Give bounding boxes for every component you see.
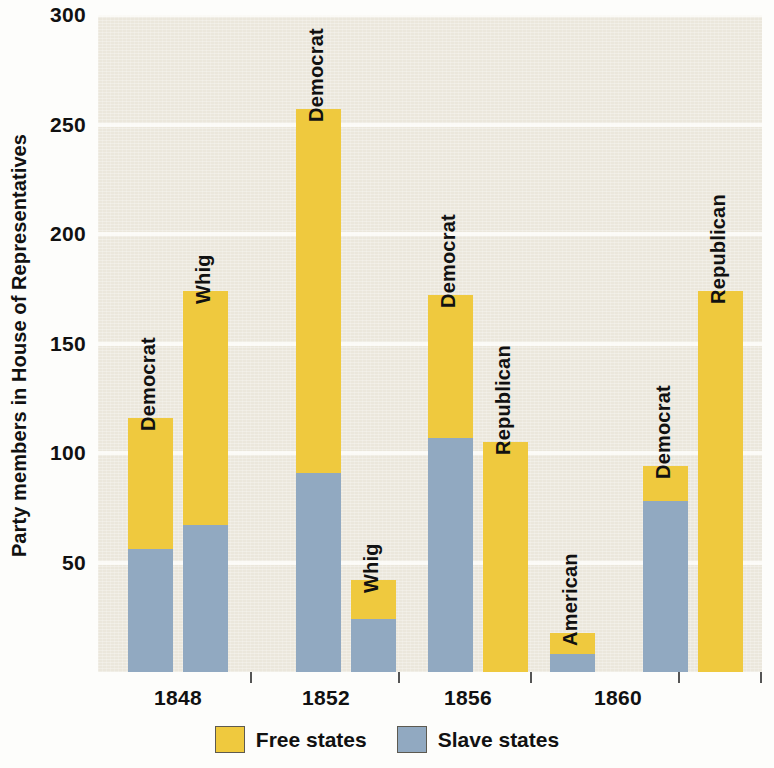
- x-axis-tick-2: [530, 672, 532, 683]
- bar-1856-republican: [483, 442, 528, 672]
- bar-1852-democrat: [296, 109, 341, 672]
- legend-swatch-free-states: [215, 726, 245, 753]
- bar-1860-republican: [698, 291, 743, 672]
- legend-label-slave-states: Slave states: [438, 728, 559, 752]
- y-tick-label-150: 150: [50, 332, 86, 356]
- bar-segment-slave-states: [643, 501, 688, 672]
- bar-label-1848-democrat: Democrat: [137, 337, 160, 431]
- bar-segment-slave-states: [183, 525, 228, 672]
- bar-1848-whig: [183, 291, 228, 672]
- x-axis-tick-3: [678, 672, 680, 683]
- bar-1860-democrat: [643, 466, 688, 672]
- bar-label-1860-republican: Republican: [707, 194, 730, 304]
- x-tick-label-1852: 1852: [302, 686, 350, 710]
- bar-segment-slave-states: [296, 473, 341, 672]
- bar-segment-free-states: [183, 291, 228, 525]
- bar-segment-slave-states: [128, 549, 173, 672]
- bar-label-1852-whig: Whig: [360, 543, 383, 593]
- x-tick-label-1848: 1848: [154, 686, 202, 710]
- bar-label-1856-american: American: [559, 553, 582, 646]
- bar-label-1856-republican: Republican: [492, 345, 515, 455]
- bar-label-1848-whig: Whig: [192, 254, 215, 304]
- gridline-250: [98, 123, 762, 127]
- bar-segment-slave-states: [428, 438, 473, 672]
- bar-segment-free-states: [698, 291, 743, 672]
- y-tick-label-100: 100: [50, 441, 86, 465]
- bar-segment-free-states: [296, 109, 341, 473]
- bar-segment-free-states: [483, 442, 528, 672]
- legend-label-free-states: Free states: [256, 728, 367, 752]
- legend-item-slave-states: Slave states: [397, 726, 559, 753]
- legend-swatch-slave-states: [397, 726, 427, 753]
- x-tick-label-1856: 1856: [444, 686, 492, 710]
- y-tick-label-250: 250: [50, 113, 86, 137]
- x-tick-label-1860: 1860: [594, 686, 642, 710]
- bar-segment-free-states: [428, 295, 473, 437]
- x-axis-tick-0: [250, 672, 252, 683]
- y-tick-label-300: 300: [50, 3, 86, 27]
- plot-area: [98, 15, 762, 672]
- legend-item-free-states: Free states: [215, 726, 367, 753]
- bar-label-1856-democrat: Democrat: [437, 214, 460, 308]
- gridline-300: [98, 15, 762, 17]
- bar-segment-free-states: [128, 418, 173, 549]
- bar-1848-democrat: [128, 418, 173, 672]
- bar-1856-democrat: [428, 295, 473, 672]
- y-axis-title-text: Party members in House of Representative…: [9, 133, 32, 556]
- x-axis: [98, 672, 762, 684]
- bar-label-1852-democrat: Democrat: [305, 28, 328, 122]
- y-axis-tick-labels: 50100150200250300: [30, 0, 92, 700]
- bar-label-1860-democrat: Democrat: [652, 385, 675, 479]
- bar-segment-slave-states: [550, 654, 595, 672]
- gridline-200: [98, 232, 762, 236]
- bar-1852-whig: [351, 580, 396, 672]
- bar-segment-slave-states: [351, 619, 396, 672]
- bar-chart: Party members in House of Representative…: [0, 0, 774, 768]
- x-axis-tick-labels: 1848185218561860: [98, 686, 762, 716]
- y-tick-label-50: 50: [62, 551, 86, 575]
- x-axis-tick-4: [760, 672, 762, 683]
- y-tick-label-200: 200: [50, 222, 86, 246]
- x-axis-tick-1: [398, 672, 400, 683]
- legend: Free states Slave states: [0, 726, 774, 753]
